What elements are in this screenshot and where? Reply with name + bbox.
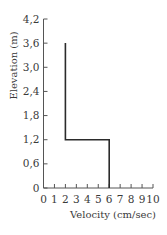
x-tick-label: 2 xyxy=(62,193,69,205)
y-axis-title: Elevation (m) xyxy=(8,31,19,99)
y-tick-label: 4,2 xyxy=(23,13,40,25)
y-tick-label: 3,0 xyxy=(23,61,40,73)
series-line xyxy=(65,43,109,188)
x-tick-label: 7 xyxy=(117,193,124,205)
x-tick-label: 0 xyxy=(40,193,47,205)
data-series xyxy=(65,43,109,188)
y-tick-label: 1,8 xyxy=(23,109,40,121)
velocity-elevation-chart: 00,61,21,82,43,03,64,2 012345678910 Elev… xyxy=(0,0,167,235)
x-tick-label: 5 xyxy=(95,193,102,205)
y-tick-label: 1,2 xyxy=(23,133,40,145)
y-tick-label: 2,4 xyxy=(23,85,40,97)
y-tick-label: 0 xyxy=(33,182,40,194)
x-tick-label: 4 xyxy=(84,193,91,205)
x-tick-label: 8 xyxy=(128,193,135,205)
x-tick-label: 9 xyxy=(139,193,146,205)
x-tick-label: 10 xyxy=(146,193,159,205)
x-tick-label: 3 xyxy=(73,193,80,205)
x-axis-title: Velocity (cm/sec) xyxy=(69,209,156,220)
x-axis: 012345678910 xyxy=(40,184,160,205)
y-tick-label: 3,6 xyxy=(23,37,40,49)
x-tick-label: 1 xyxy=(51,193,58,205)
y-tick-label: 0,6 xyxy=(23,157,40,169)
y-axis: 00,61,21,82,43,03,64,2 xyxy=(23,13,48,194)
x-tick-label: 6 xyxy=(106,193,113,205)
